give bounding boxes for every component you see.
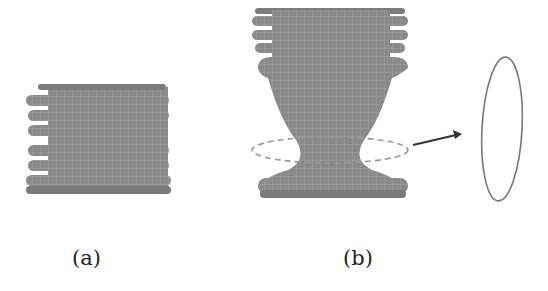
mesh-a [26, 84, 171, 194]
panel-label-a: (a) [72, 246, 101, 270]
mesh-b [252, 8, 408, 198]
cross-section-ring [478, 56, 525, 202]
arrow-icon [413, 130, 462, 145]
panel-label-b: (b) [343, 246, 373, 270]
